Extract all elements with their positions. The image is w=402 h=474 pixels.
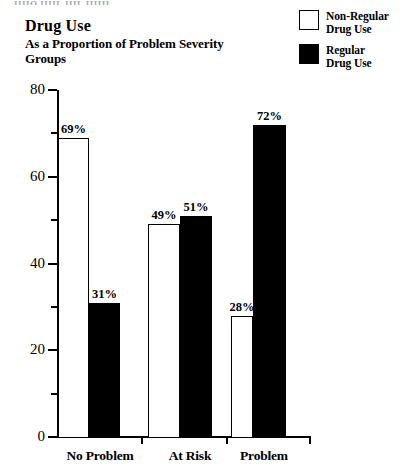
y-tick-major-0	[48, 436, 57, 438]
y-axis-label-text: 20	[1, 342, 45, 357]
bar-no-problem-regular[interactable]	[89, 303, 120, 437]
y-axis-label-text: 80	[1, 82, 45, 97]
y-tick-minor-30	[51, 306, 57, 308]
y-axis-label-text: 0	[1, 429, 45, 444]
y-axis-label-40: 40	[0, 256, 45, 271]
y-axis-label-text: 40	[1, 256, 45, 271]
y-axis-label-80: 80	[0, 82, 45, 97]
y-tick-major-40	[48, 263, 57, 265]
bar-value-label: 72%	[252, 110, 288, 123]
bar-problem-non-regular[interactable]	[231, 316, 253, 437]
bar-no-problem-non-regular[interactable]	[58, 138, 89, 437]
x-tick-1	[226, 436, 228, 444]
y-axis-label-60: 60	[0, 169, 45, 184]
bar-value-label: 49%	[146, 209, 182, 222]
bar-value-label: 69%	[56, 123, 92, 136]
x-tick-2	[309, 436, 311, 444]
bar-value-label: 51%	[178, 201, 214, 214]
y-tick-major-20	[48, 349, 57, 351]
category-label-problem: Problem	[214, 448, 314, 463]
y-tick-minor-10	[51, 393, 57, 395]
y-axis-label-0: 0	[0, 429, 45, 444]
chart-page: IIIIO IIIIL IIIL IIIIII Drug Use As a Pr…	[0, 0, 402, 474]
bar-at-risk-non-regular[interactable]	[148, 224, 180, 437]
x-tick-0	[141, 436, 143, 444]
y-axis-label-20: 20	[0, 342, 45, 357]
y-tick-minor-50	[51, 219, 57, 221]
bar-value-label: 31%	[87, 288, 123, 301]
category-label-no-problem: No Problem	[50, 448, 150, 463]
y-tick-major-60	[48, 176, 57, 178]
y-axis-label-text: 60	[1, 169, 45, 184]
bar-at-risk-regular[interactable]	[180, 216, 212, 437]
plot-area: 020406080 69%31%49%51%28%72% No ProblemA…	[0, 0, 402, 474]
y-tick-major-80	[48, 89, 57, 91]
bar-problem-regular[interactable]	[253, 125, 286, 437]
